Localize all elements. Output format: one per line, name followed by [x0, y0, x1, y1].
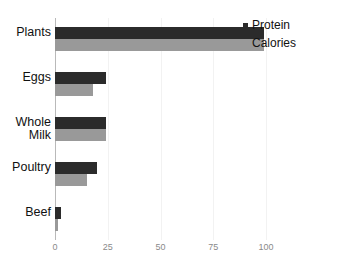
legend-swatch-icon [243, 41, 248, 46]
bar-protein [55, 27, 264, 39]
category-label: Beef [0, 206, 51, 219]
bar-protein [55, 117, 106, 129]
bar-calories [55, 174, 87, 186]
legend-label: Protein [252, 19, 290, 32]
legend: ProteinCalories [243, 17, 296, 53]
x-tick-label: 75 [208, 242, 218, 252]
bar-calories [55, 219, 58, 231]
bar-group [55, 72, 287, 97]
category-label: Whole Milk [0, 116, 51, 142]
legend-item[interactable]: Calories [243, 35, 296, 51]
x-tick-label: 50 [155, 242, 165, 252]
category-label: Plants [0, 26, 51, 39]
bar-protein [55, 72, 106, 84]
bar-protein [55, 207, 61, 219]
category-label: Poultry [0, 161, 51, 174]
bar-calories [55, 84, 93, 96]
bar-calories [55, 129, 106, 141]
x-tick-label: 100 [258, 242, 273, 252]
bar-calories [55, 39, 264, 51]
bar-group [55, 162, 287, 187]
category-label: Eggs [0, 71, 51, 84]
bar-protein [55, 162, 97, 174]
bar-group [55, 207, 287, 232]
bar-group [55, 117, 287, 142]
legend-label: Calories [252, 37, 296, 50]
legend-item[interactable]: Protein [243, 17, 296, 33]
bar-chart: PlantsEggsWhole MilkPoultryBeef 02550751… [0, 0, 340, 275]
x-tick-label: 0 [52, 242, 57, 252]
x-tick-label: 25 [103, 242, 113, 252]
legend-swatch-icon [243, 23, 248, 28]
